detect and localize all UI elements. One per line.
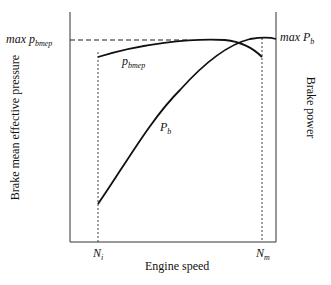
pb-curve-label: Pb — [160, 120, 171, 136]
pbmep-curve-label: pbmep — [122, 54, 145, 70]
x-tick-ni: Ni — [93, 246, 103, 262]
x-tick-nm: Nm — [256, 246, 270, 262]
max-pbmep-label: max pbmep — [6, 32, 52, 48]
max-pb-label: max Pb — [280, 30, 314, 46]
y-axis-right-label: Brake power — [303, 68, 318, 148]
y-axis-left-label: Brake mean effective pressure — [8, 48, 23, 208]
x-axis-label: Engine speed — [145, 259, 209, 274]
